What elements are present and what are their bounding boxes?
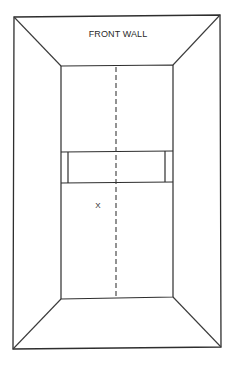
short-line [61,151,173,152]
service-line [61,182,173,183]
corner-line-bottom-left [13,299,61,349]
corner-line-bottom-right [173,297,221,347]
corner-line-top-left [14,17,61,66]
corner-line-top-right [173,15,220,65]
front-wall-label: FRONT WALL [89,29,148,39]
court-diagram: FRONT WALL X [0,0,232,366]
position-marker-x: X [95,201,101,210]
